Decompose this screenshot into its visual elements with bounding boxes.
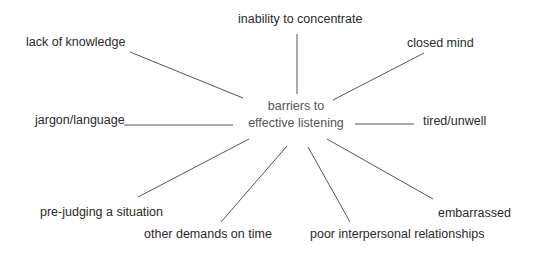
connector-other-demands [221, 146, 287, 222]
branch-inability-to-concentrate: inability to concentrate [238, 12, 362, 26]
center-node: barriers to effective listening [246, 99, 346, 130]
branch-lack-of-knowledge: lack of knowledge [26, 35, 125, 49]
connector-embarrassed [327, 139, 433, 199]
branch-other-demands: other demands on time [144, 227, 272, 241]
branch-pre-judging: pre-judging a situation [40, 205, 163, 219]
center-line-1: barriers to [246, 99, 346, 116]
branch-closed-mind: closed mind [407, 36, 474, 50]
connector-poor-relationships [308, 147, 350, 222]
branch-tired-unwell: tired/unwell [423, 114, 486, 128]
branch-jargon-language: jargon/language [35, 113, 125, 127]
center-line-2: effective listening [246, 116, 346, 130]
connector-lack-of-knowledge [130, 52, 243, 98]
connector-closed-mind [333, 53, 424, 100]
connector-pre-judging [138, 139, 249, 197]
branch-poor-relationships: poor interpersonal relationships [310, 227, 484, 241]
branch-embarrassed: embarrassed [438, 206, 511, 220]
